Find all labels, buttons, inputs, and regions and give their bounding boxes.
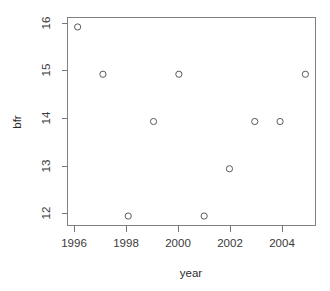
- y-tick-label-16: 16: [40, 17, 52, 30]
- x-tick-label-2002: 2002: [217, 237, 243, 249]
- x-axis-title: year: [180, 267, 203, 279]
- x-tick-label-1996: 1996: [61, 237, 87, 249]
- y-axis-title: bfr: [11, 115, 23, 129]
- scatter-plot-figure: 16 15 14 13 12 1996 1998 2000 2002 2004 …: [0, 0, 330, 291]
- y-tick-label-13: 13: [40, 160, 52, 173]
- y-tick-label-12: 12: [40, 207, 52, 220]
- x-tick-label-1998: 1998: [113, 237, 139, 249]
- y-tick-label-14: 14: [40, 111, 52, 124]
- x-tick-label-2004: 2004: [269, 237, 295, 249]
- plot-canvas: 16 15 14 13 12 1996 1998 2000 2002 2004 …: [0, 0, 330, 291]
- x-tick-label-2000: 2000: [165, 237, 191, 249]
- y-tick-label-15: 15: [40, 64, 52, 77]
